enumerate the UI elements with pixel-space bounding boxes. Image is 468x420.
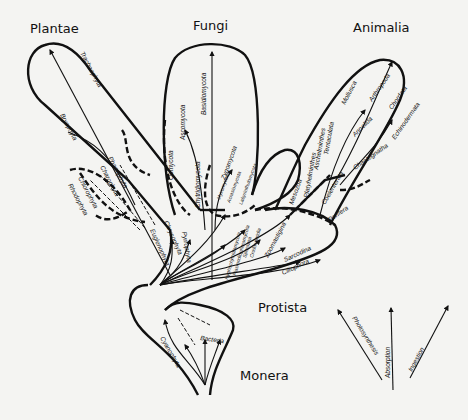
protista-region (150, 208, 337, 310)
legend-absorption: Absorption (384, 347, 392, 379)
kingdom-label-monera: Monera (240, 368, 289, 383)
taxon-mollusca: Mollusca (340, 79, 358, 105)
kingdom-label-fungi: Fungi (193, 18, 228, 33)
phylogeny-diagram: Plantae Fungi Animalia Protista Monera (0, 0, 468, 420)
taxon-chytridiomycota: Chytridiomycota (194, 161, 202, 208)
taxon-tracheophyta: Tracheophyta (78, 50, 104, 89)
kingdom-label-protista: Protista (258, 300, 307, 315)
taxon-platyhelminthes: Platyhelminthes (302, 151, 318, 198)
legend-ingestion: Ingestion (407, 346, 427, 373)
taxon-bacteria: Bacteria (200, 334, 225, 344)
nutrition-legend: Photosynthesis Absorption Ingestion (338, 306, 448, 390)
taxon-basidiomycota: Basidiomycota (200, 72, 208, 115)
taxon-chaetognatha: Chaetognatha (352, 141, 390, 171)
taxon-porifera: Porifera (327, 204, 350, 223)
kingdom-label-animalia: Animalia (353, 20, 410, 35)
taxon-arthropoda: Arthropoda (367, 72, 393, 104)
taxon-bryophyta: Bryophyta (58, 112, 79, 142)
kingdom-label-plantae: Plantae (30, 21, 79, 36)
taxon-oomycota: Oomycota (167, 150, 175, 180)
taxon-ascomycota: Ascomycota (179, 104, 187, 141)
